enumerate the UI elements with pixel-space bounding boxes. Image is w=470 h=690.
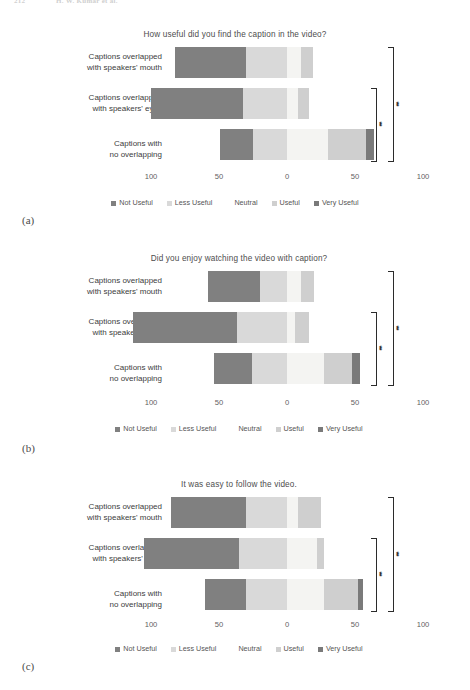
- bar-segment: [317, 538, 324, 569]
- legend-item: Neutral: [230, 644, 261, 653]
- axis-tick-label: 0: [285, 172, 289, 181]
- bar-segment: [243, 88, 287, 119]
- legend-label: Not Useful: [123, 424, 157, 433]
- axis-tick-label: 100: [417, 172, 430, 181]
- bar-segment: [246, 497, 287, 528]
- legend-item: Useful: [272, 198, 300, 207]
- legend-label: Very Useful: [326, 424, 363, 433]
- bar-segment: [287, 579, 324, 610]
- bar-segment: [287, 497, 298, 528]
- bar-stack-b-2: [0, 350, 470, 390]
- legend-item: Less Useful: [167, 198, 213, 207]
- bar-segment: [253, 129, 287, 160]
- significance-marker: **: [392, 101, 401, 105]
- bar-segment: [352, 353, 360, 384]
- legend-swatch-icon: [171, 647, 176, 652]
- axis-tick-label: 50: [351, 398, 359, 407]
- bar-segment: [287, 88, 298, 119]
- chart-row-b-2: Captions with no overlapping: [0, 350, 470, 390]
- legend-a: Not UsefulLess UsefulNeutralUsefulVery U…: [0, 198, 470, 207]
- legend-item: Not Useful: [115, 424, 157, 433]
- bar-segment: [295, 312, 309, 343]
- legend-label: Neutral: [238, 424, 261, 433]
- bar-segment: [246, 47, 287, 78]
- legend-label: Useful: [284, 424, 304, 433]
- axis-tick-label: 50: [215, 620, 223, 629]
- chart-title-c: It was easy to follow the video.: [0, 480, 470, 489]
- legend-item: Neutral: [230, 424, 261, 433]
- bar-segment: [287, 312, 295, 343]
- legend-swatch-icon: [318, 647, 323, 652]
- bar-stack-c-0: [0, 494, 470, 534]
- significance-marker: **: [375, 121, 384, 125]
- chart-row-a-2: Captions with no overlapping: [0, 126, 470, 166]
- bar-segment: [151, 88, 243, 119]
- page-running-head: H. W. Kumar et al.: [56, 0, 118, 5]
- legend-label: Not Useful: [119, 198, 153, 207]
- legend-item: Not Useful: [115, 644, 157, 653]
- x-axis-a: 10050050100: [0, 172, 470, 186]
- x-axis-c: 10050050100: [0, 620, 470, 634]
- axis-tick-label: 50: [215, 398, 223, 407]
- bar-segment: [239, 538, 287, 569]
- legend-c: Not UsefulLess UsefulNeutralUsefulVery U…: [0, 644, 470, 653]
- legend-item: Not Useful: [111, 198, 153, 207]
- bar-segment: [324, 353, 353, 384]
- legend-b: Not UsefulLess UsefulNeutralUsefulVery U…: [0, 424, 470, 433]
- bar-segment: [287, 353, 324, 384]
- legend-label: Very Useful: [322, 198, 359, 207]
- chart-row-c-2: Captions with no overlapping: [0, 576, 470, 616]
- legend-swatch-icon: [167, 201, 172, 206]
- subfigure-label-a: (a): [22, 214, 34, 226]
- legend-item: Very Useful: [318, 424, 363, 433]
- legend-label: Neutral: [234, 198, 257, 207]
- legend-item: Useful: [276, 424, 304, 433]
- plot-area-c: Captions overlapped with speakers' mouth…: [0, 494, 470, 618]
- axis-tick-label: 100: [417, 620, 430, 629]
- significance-marker: **: [392, 325, 401, 329]
- bar-segment: [358, 579, 363, 610]
- legend-swatch-icon: [318, 427, 323, 432]
- bar-segment: [171, 497, 246, 528]
- bar-segment: [287, 538, 317, 569]
- legend-label: Useful: [284, 644, 304, 653]
- legend-label: Useful: [280, 198, 300, 207]
- page-folio: 212: [14, 0, 25, 5]
- chart-row-b-0: Captions overlapped with speakers' mouth: [0, 268, 470, 308]
- axis-tick-label: 50: [351, 172, 359, 181]
- axis-tick-label: 100: [417, 398, 430, 407]
- bar-segment: [301, 47, 313, 78]
- legend-swatch-icon: [171, 427, 176, 432]
- legend-item: Very Useful: [318, 644, 363, 653]
- significance-marker: **: [375, 345, 384, 349]
- axis-tick-label: 0: [285, 620, 289, 629]
- x-axis-b: 10050050100: [0, 398, 470, 412]
- legend-label: Not Useful: [123, 644, 157, 653]
- significance-marker: **: [375, 571, 384, 575]
- bar-segment: [175, 47, 246, 78]
- axis-tick-label: 50: [351, 620, 359, 629]
- bar-segment: [208, 271, 260, 302]
- legend-label: Neutral: [238, 644, 261, 653]
- bar-stack-c-2: [0, 576, 470, 616]
- figure-a: How useful did you find the caption in t…: [0, 22, 470, 246]
- axis-tick-label: 100: [145, 172, 158, 181]
- bar-segment: [298, 88, 309, 119]
- legend-swatch-icon: [276, 427, 281, 432]
- figure-c: It was easy to follow the video. Caption…: [0, 472, 470, 690]
- legend-swatch-icon: [115, 427, 120, 432]
- bar-segment: [298, 497, 321, 528]
- legend-item: Less Useful: [171, 644, 217, 653]
- figure-b: Did you enjoy watching the video with ca…: [0, 246, 470, 472]
- chart-row-c-0: Captions overlapped with speakers' mouth: [0, 494, 470, 534]
- legend-swatch-icon: [111, 201, 116, 206]
- bar-segment: [328, 129, 366, 160]
- chart-title-a: How useful did you find the caption in t…: [0, 30, 470, 39]
- subfigure-label-c: (c): [22, 660, 34, 672]
- bar-segment: [287, 47, 301, 78]
- legend-item: Useful: [276, 644, 304, 653]
- bar-segment: [246, 579, 287, 610]
- bar-segment: [287, 271, 301, 302]
- bar-segment: [205, 579, 246, 610]
- bar-segment: [220, 129, 253, 160]
